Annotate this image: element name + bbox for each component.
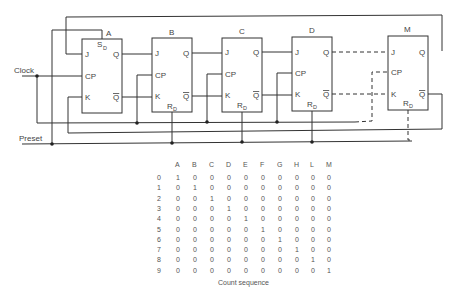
ff-m-j: J: [391, 48, 395, 57]
table-cell: 0: [193, 267, 197, 274]
table-cell: 0: [327, 184, 331, 191]
table-cell: 0: [244, 256, 248, 263]
ff-m-qbar: Q: [419, 90, 425, 99]
table-cell: 0: [210, 267, 214, 274]
ff-a-j: J: [85, 50, 89, 59]
ff-m-name: M: [404, 25, 411, 34]
clock-label: Clock: [14, 66, 35, 75]
row-index: 8: [157, 256, 161, 263]
table-cell: 0: [278, 267, 282, 274]
table-cell: 0: [176, 195, 180, 202]
table-cell: 0: [295, 226, 299, 233]
table-cell: 0: [227, 184, 231, 191]
table-cell: 0: [227, 236, 231, 243]
ff-a-sd-sub: D: [103, 45, 107, 51]
table-cell: 0: [193, 205, 197, 212]
table-cell: 0: [176, 246, 180, 253]
ff-c-rd-sub: D: [243, 105, 247, 111]
table-cell: 0: [278, 246, 282, 253]
table-cell: 0: [261, 184, 265, 191]
column-header: E: [243, 161, 248, 168]
ff-a-qbar: Q: [113, 93, 119, 102]
table-cell: 0: [176, 236, 180, 243]
table-cell: 0: [261, 174, 265, 181]
row-index: 1: [157, 184, 161, 191]
table-cell: 0: [311, 226, 315, 233]
column-header: B: [192, 161, 197, 168]
table-cell: 0: [210, 246, 214, 253]
table-cell: 0: [244, 195, 248, 202]
table-cell: 0: [295, 267, 299, 274]
table-cell: 0: [261, 267, 265, 274]
ff-b-name: B: [169, 28, 174, 37]
table-cell: 0: [278, 184, 282, 191]
row-index: 6: [157, 236, 161, 243]
table-cell: 0: [311, 246, 315, 253]
preset-label: Preset: [19, 134, 43, 143]
table-cell: 0: [227, 215, 231, 222]
ff-d-q: Q: [323, 48, 329, 57]
table-cell: 1: [278, 236, 282, 243]
table-cell: 0: [311, 267, 315, 274]
ff-c-cp: CP: [225, 70, 236, 79]
ff-a-name: A: [106, 29, 112, 38]
table-cell: 0: [193, 226, 197, 233]
table-cell: 0: [227, 226, 231, 233]
table-cell: 0: [193, 195, 197, 202]
column-header: F: [260, 161, 264, 168]
ring-counter-diagram: Clock Preset A S D J CP K Q Q B J CP K Q…: [0, 0, 467, 297]
table-cell: 0: [210, 174, 214, 181]
table-cell: 0: [311, 174, 315, 181]
table-cell: 0: [193, 215, 197, 222]
table-cell: 0: [210, 215, 214, 222]
ff-d-j: J: [295, 48, 299, 57]
column-header: G: [277, 161, 282, 168]
table-cell: 0: [327, 226, 331, 233]
table-cell: 0: [261, 256, 265, 263]
table-cell: 0: [210, 205, 214, 212]
column-header: M: [326, 161, 332, 168]
table-cell: 0: [295, 205, 299, 212]
table-cell: 0: [295, 184, 299, 191]
table-cell: 1: [311, 256, 315, 263]
row-index: 0: [157, 174, 161, 181]
table-cell: 0: [193, 174, 197, 181]
count-sequence-table: ABCDEFGHLM 01000000000101000000002001000…: [157, 161, 332, 274]
table-cell: 1: [193, 184, 197, 191]
table-cell: 0: [278, 205, 282, 212]
table-cell: 0: [261, 236, 265, 243]
row-index: 5: [157, 226, 161, 233]
table-cell: 0: [327, 246, 331, 253]
table-cell: 0: [176, 226, 180, 233]
row-index: 3: [157, 205, 161, 212]
table-cell: 0: [278, 256, 282, 263]
preset-bus: [22, 141, 412, 144]
table-cell: 0: [327, 256, 331, 263]
table-cell: 0: [210, 256, 214, 263]
ff-a-sd: S: [97, 40, 102, 49]
table-cell: 0: [227, 246, 231, 253]
row-index: 9: [157, 267, 161, 274]
table-cell: 0: [278, 215, 282, 222]
ff-a-cp: CP: [85, 72, 96, 81]
table-cell: 0: [327, 174, 331, 181]
table-cell: 0: [261, 195, 265, 202]
ff-b-qbar: Q: [183, 92, 189, 101]
column-header: A: [175, 161, 180, 168]
ff-a-q: Q: [113, 50, 119, 59]
ff-d-name: D: [309, 26, 315, 35]
ff-b-k: K: [155, 92, 161, 101]
ff-c-qbar: Q: [253, 91, 259, 100]
ff-b-rd-sub: D: [173, 106, 177, 112]
table-cell: 1: [227, 205, 231, 212]
table-cell: 0: [261, 215, 265, 222]
ff-c-name: C: [239, 27, 245, 36]
ff-d-rd-sub: D: [313, 104, 317, 110]
table-cell: 0: [295, 256, 299, 263]
table-cell: 0: [261, 246, 265, 253]
table-cell: 0: [261, 205, 265, 212]
table-cell: 0: [295, 195, 299, 202]
column-header: H: [294, 161, 299, 168]
ff-d-cp: CP: [295, 69, 306, 78]
table-cell: 0: [311, 215, 315, 222]
